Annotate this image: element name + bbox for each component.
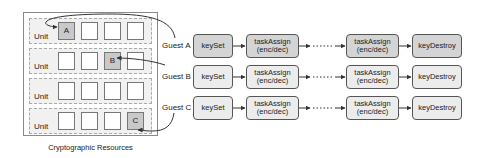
connector-arrows: [0, 0, 487, 158]
